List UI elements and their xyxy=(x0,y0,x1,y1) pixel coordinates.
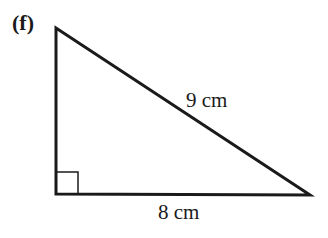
right-angle-marker xyxy=(56,172,78,194)
part-label: (f) xyxy=(12,10,34,36)
hypotenuse-length-label: 9 cm xyxy=(186,88,227,113)
triangle xyxy=(56,28,310,195)
base-length-label: 8 cm xyxy=(158,200,199,225)
